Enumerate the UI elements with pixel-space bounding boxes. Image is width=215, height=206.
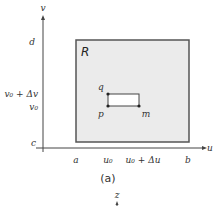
point-p [106,104,109,107]
v-tick-c: c [31,138,36,148]
uv-plane-diagram: v u R d v₀ + Δv v₀ c a u₀ u₀ + Δu b q p … [0,0,215,206]
u-tick-b: b [185,155,191,165]
point-label-p: p [98,109,104,119]
point-q [106,92,109,95]
v-axis-arrow-icon [41,15,45,20]
u-axis-label: u [207,143,213,153]
region-label: R [81,45,89,59]
region-r [76,40,189,142]
v-tick-v0: v₀ [29,102,38,112]
u-tick-u0: u₀ [103,155,113,165]
v-tick-d: d [29,37,35,47]
u-tick-a: a [73,155,78,165]
v-tick-v0-plus-dv: v₀ + Δv [4,89,38,99]
z-axis-label: z [114,190,120,200]
point-label-q: q [98,82,104,92]
point-m [137,104,140,107]
point-label-m: m [142,109,151,119]
figure-caption: (a) [100,172,115,185]
cell-rectangle [108,94,139,106]
v-axis-label: v [40,3,45,13]
u-tick-u0-plus-du: u₀ + Δu [126,155,161,165]
